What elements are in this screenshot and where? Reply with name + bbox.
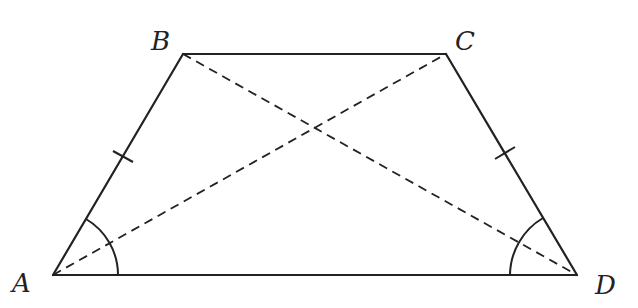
diagonal-bd bbox=[183, 54, 577, 275]
angle-arc-a bbox=[86, 219, 118, 275]
tick-mark-ab bbox=[113, 151, 133, 162]
trapezoid-diagram: A B C D bbox=[0, 0, 638, 308]
diagonal-ac bbox=[53, 54, 446, 275]
vertex-label-b: B bbox=[150, 26, 170, 56]
vertex-label-d: D bbox=[594, 270, 616, 300]
side-cd bbox=[446, 54, 577, 275]
side-ab bbox=[53, 54, 183, 275]
vertex-label-c: C bbox=[455, 26, 475, 56]
tick-mark-cd bbox=[495, 147, 515, 159]
vertex-label-a: A bbox=[10, 268, 31, 298]
